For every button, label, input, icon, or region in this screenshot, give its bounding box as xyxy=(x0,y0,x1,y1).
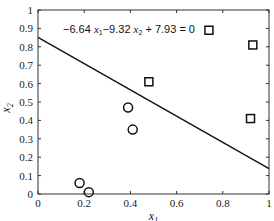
square-point xyxy=(247,115,255,123)
circle-point xyxy=(124,103,133,112)
x-tick-label: 0.8 xyxy=(216,197,230,209)
x-tick-label: 1 xyxy=(266,197,272,209)
y-tick-label: 0.3 xyxy=(19,133,33,145)
circle-point xyxy=(128,125,137,134)
y-tick-label: 0.7 xyxy=(19,59,33,71)
x-tick-label: 0.6 xyxy=(170,197,184,209)
y-tick-label: 0.9 xyxy=(19,22,33,34)
equation-annotation: −6.64 x1−9.32 x2 + 7.93 = 0 xyxy=(63,23,195,36)
y-tick-label: 0.6 xyxy=(19,78,33,90)
y-axis-label: x2 xyxy=(0,103,15,113)
y-tick-label: 0.4 xyxy=(19,114,33,126)
circle-point xyxy=(75,178,84,187)
y-tick-label: 0.8 xyxy=(19,41,33,53)
y-tick-label: 0.5 xyxy=(19,96,33,108)
plot-frame xyxy=(38,10,269,194)
y-tick-label: 1 xyxy=(28,4,34,16)
y-tick-label: 0.2 xyxy=(19,151,33,163)
scatter-chart: 00.20.40.60.8100.10.20.30.40.50.60.70.80… xyxy=(0,0,274,221)
square-point xyxy=(205,26,213,34)
y-tick-label: 0 xyxy=(28,188,34,200)
circle-point xyxy=(84,188,93,197)
x-tick-label: 0.2 xyxy=(77,197,91,209)
square-point xyxy=(249,41,257,49)
x-tick-label: 0.4 xyxy=(124,197,138,209)
decision-boundary-line xyxy=(38,37,269,168)
x-axis-label: x1 xyxy=(148,209,158,221)
x-tick-label: 0 xyxy=(35,197,41,209)
square-point xyxy=(145,78,153,86)
y-tick-label: 0.1 xyxy=(19,170,33,182)
